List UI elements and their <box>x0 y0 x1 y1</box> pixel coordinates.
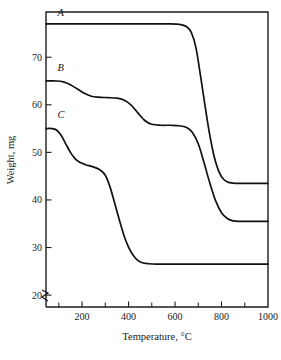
x-tick-label: 200 <box>75 311 90 322</box>
x-tick-label: 400 <box>121 311 136 322</box>
curve-c <box>46 128 268 264</box>
tga-chart-svg: 203040506070 2004006008001000 ABC Temper… <box>0 0 281 360</box>
data-curves <box>46 24 268 264</box>
curve-label-a: A <box>57 7 65 18</box>
y-axis-ticks <box>46 57 52 295</box>
y-tick-label: 30 <box>32 242 42 253</box>
x-tick-label: 600 <box>168 311 183 322</box>
plot-frame <box>46 12 268 307</box>
y-tick-label: 70 <box>32 52 42 63</box>
x-tick-label: 800 <box>214 311 229 322</box>
y-axis-title: Weight, mg <box>5 135 16 184</box>
y-tick-label: 60 <box>32 99 42 110</box>
y-axis-tick-labels: 203040506070 <box>32 52 42 301</box>
curve-a <box>46 24 268 183</box>
y-tick-label: 50 <box>32 147 42 158</box>
x-axis-tick-labels: 2004006008001000 <box>75 311 278 322</box>
tga-figure: 203040506070 2004006008001000 ABC Temper… <box>0 0 281 360</box>
y-tick-label: 20 <box>32 290 42 301</box>
curve-label-b: B <box>58 62 65 73</box>
x-tick-label: 1000 <box>258 311 278 322</box>
curve-b <box>46 81 268 221</box>
x-axis-ticks <box>59 302 245 308</box>
x-axis-title: Temperature, °C <box>122 331 191 342</box>
curve-label-c: C <box>58 109 66 120</box>
y-tick-label: 40 <box>32 194 42 205</box>
